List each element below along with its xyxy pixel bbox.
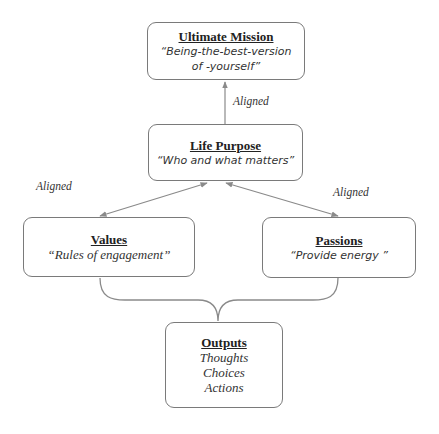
node-subtitle-line: of -yourself” — [192, 59, 260, 74]
output-item: Thoughts — [200, 350, 248, 365]
arrow-purpose-values — [100, 183, 207, 216]
node-passions: Passions “Provide energy ” — [262, 217, 416, 278]
output-item: Choices — [203, 365, 245, 380]
node-title: Life Purpose — [190, 138, 261, 153]
node-ultimate-mission: Ultimate Mission “Being-the-best-version… — [147, 22, 305, 80]
node-subtitle-line: “Who and what matters” — [157, 153, 294, 168]
brace-connector — [100, 278, 338, 321]
arrow-purpose-passions — [226, 183, 338, 216]
edge-label-aligned: Aligned — [233, 95, 269, 107]
node-subtitle-line: “Being-the-best-version — [160, 44, 291, 59]
edge-label-aligned: Aligned — [36, 180, 72, 192]
output-item: Actions — [205, 380, 244, 395]
node-title: Values — [91, 232, 127, 247]
edge-label-aligned: Aligned — [333, 186, 369, 198]
node-life-purpose: Life Purpose “Who and what matters” — [148, 124, 303, 181]
node-title: Ultimate Mission — [179, 29, 274, 44]
node-title: Outputs — [201, 335, 247, 350]
node-subtitle-line: “Provide energy ” — [290, 248, 388, 263]
node-values: Values “Rules of engagement” — [23, 217, 195, 277]
node-title: Passions — [316, 233, 363, 248]
node-outputs: Outputs Thoughts Choices Actions — [165, 322, 283, 408]
node-subtitle-line: “Rules of engagement” — [48, 247, 171, 262]
